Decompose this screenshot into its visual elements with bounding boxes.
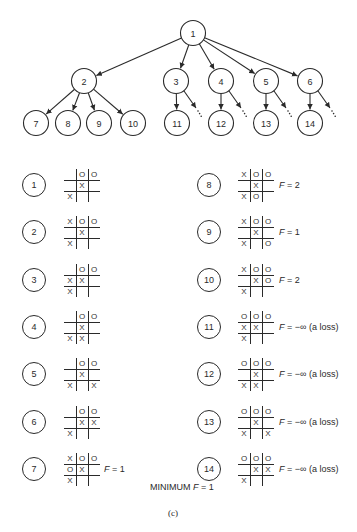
tree-edge-continued [229, 91, 241, 108]
tictactoe-board: XOOXXO [238, 169, 274, 202]
state-row-13: 13OOOXXXF = −∞ (a loss) [175, 403, 357, 443]
state-number: 9 [197, 220, 221, 244]
tictactoe-board: XOOXOX [238, 264, 274, 297]
tictactoe-board: XOOXXO [238, 216, 274, 249]
tree-node-4: 4 [209, 69, 234, 94]
state-row-7: 7XOOOXXF = 1 [0, 450, 175, 490]
x-mark: X [238, 380, 250, 391]
figure-caption: (c) [168, 508, 178, 518]
tree-edge-continued [274, 91, 286, 108]
state-number: 14 [197, 457, 221, 481]
o-mark: O [76, 264, 88, 275]
tictactoe-board: OOXX [64, 169, 100, 202]
x-mark: X [238, 333, 250, 344]
x-mark: X [250, 417, 262, 428]
state-row-4: 4OOXXX [0, 308, 175, 348]
ellipsis-dot [287, 110, 289, 112]
o-mark: O [88, 358, 100, 369]
ellipsis-dot [244, 113, 246, 115]
x-mark: X [238, 475, 250, 486]
x-mark: X [76, 333, 88, 344]
x-mark: X [76, 417, 88, 428]
evaluation-value: F = 1 [104, 464, 125, 474]
tictactoe-board: XOOXX [64, 216, 100, 249]
x-mark: X [76, 180, 88, 191]
o-mark: O [250, 311, 262, 322]
svg-text:3: 3 [173, 77, 178, 87]
x-mark: X [250, 275, 262, 286]
o-mark: O [88, 169, 100, 180]
o-mark: O [262, 406, 274, 417]
x-mark: X [250, 180, 262, 191]
tictactoe-board: OOOXXX [238, 453, 274, 486]
o-mark: O [250, 169, 262, 180]
x-mark: X [64, 380, 76, 391]
x-mark: X [262, 464, 274, 475]
o-mark: O [76, 358, 88, 369]
state-number: 2 [22, 220, 46, 244]
svg-text:11: 11 [172, 119, 181, 129]
o-mark: O [76, 406, 88, 417]
x-mark: X [250, 227, 262, 238]
state-row-12: 12OOOXXXF = −∞ (a loss) [175, 355, 357, 395]
tictactoe-board: OOOXXX [238, 311, 274, 344]
ellipsis-dot [200, 115, 202, 117]
evaluation-value: F = 1 [279, 227, 300, 237]
tictactoe-board: OOXXX [64, 358, 100, 391]
svg-text:8: 8 [65, 119, 70, 129]
x-mark: X [238, 322, 250, 333]
state-number: 8 [197, 173, 221, 197]
state-row-5: 5OOXXX [0, 355, 175, 395]
tictactoe-board: OOXXX [64, 264, 100, 297]
tree-node-7: 7 [24, 111, 49, 136]
svg-text:14: 14 [305, 119, 315, 129]
x-mark: X [238, 169, 250, 180]
evaluation-value: F = 2 [279, 275, 300, 285]
tree-node-5: 5 [254, 69, 279, 94]
x-mark: X [64, 286, 76, 297]
ellipsis-dot [245, 115, 247, 117]
x-mark: X [76, 275, 88, 286]
tree-edge-continued [318, 91, 330, 108]
o-mark: O [76, 216, 88, 227]
svg-text:6: 6 [307, 77, 312, 87]
o-mark: O [262, 311, 274, 322]
tictactoe-board: OOOXXX [238, 358, 274, 391]
x-mark: X [238, 428, 250, 439]
ellipsis-dot [334, 115, 336, 117]
x-mark: X [76, 322, 88, 333]
o-mark: O [262, 453, 274, 464]
tree-node-13: 13 [254, 111, 279, 136]
svg-text:4: 4 [218, 77, 223, 87]
o-mark: O [88, 453, 100, 464]
minimum-f-summary: MINIMUM F = 1 [150, 482, 214, 492]
tree-node-1: 1 [181, 21, 206, 46]
o-mark: O [262, 275, 274, 286]
state-row-9: 9XOOXXOF = 1 [175, 213, 357, 253]
tree-node-14: 14 [298, 111, 323, 136]
x-mark: X [250, 464, 262, 475]
svg-text:1: 1 [190, 29, 195, 39]
game-tree: 1234567891011121314 [0, 0, 357, 145]
state-number: 7 [22, 457, 46, 481]
x-mark: X [64, 333, 76, 344]
o-mark: O [250, 264, 262, 275]
tree-node-10: 10 [121, 111, 146, 136]
tree-edge [199, 44, 214, 70]
state-number: 1 [22, 173, 46, 197]
state-row-2: 2XOOXX [0, 213, 175, 253]
evaluation-value: F = −∞ (a loss) [279, 322, 338, 332]
x-mark: X [238, 191, 250, 202]
state-row-1: 1OOXX [0, 166, 175, 206]
state-number: 5 [22, 362, 46, 386]
x-mark: X [238, 286, 250, 297]
svg-text:12: 12 [216, 119, 226, 129]
o-mark: O [250, 191, 262, 202]
state-number: 11 [197, 315, 221, 339]
o-mark: O [88, 311, 100, 322]
state-row-10: 10XOOXOXF = 2 [175, 261, 357, 301]
x-mark: X [238, 238, 250, 249]
state-number: 10 [197, 268, 221, 292]
ellipsis-dot [331, 110, 333, 112]
x-mark: X [250, 322, 262, 333]
